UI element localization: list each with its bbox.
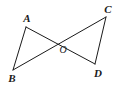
vertex-label-a: A <box>23 13 30 24</box>
segment-cd <box>95 17 106 64</box>
vertex-label-d: D <box>94 68 102 79</box>
vertex-label-c: C <box>104 4 111 15</box>
vertex-label-o: O <box>59 45 66 55</box>
vertex-label-b: B <box>8 73 15 84</box>
geometry-figure: A B C D O <box>0 0 120 88</box>
